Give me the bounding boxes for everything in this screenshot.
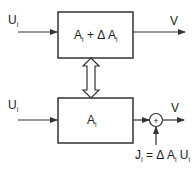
sum-plus-sign: + [153,116,158,126]
bottom-output-label: V [171,101,179,115]
top-input-label: Ui [8,13,19,28]
injection-label: Ji = Δ Ai Ui [135,148,191,163]
top-system: Ui Ai + Δ Ai V [8,12,185,58]
bottom-input-label: Ui [8,98,19,113]
block-diagram: Ui Ai + Δ Ai V Ui Ai + V Ji = Δ Ai Ui [0,0,196,169]
bottom-system: Ui Ai + V Ji = Δ Ai Ui [8,98,191,163]
top-block-label: Ai + Δ Ai [74,28,118,43]
top-output-label: V [170,14,178,28]
double-headed-hollow-arrow-icon [83,58,99,98]
